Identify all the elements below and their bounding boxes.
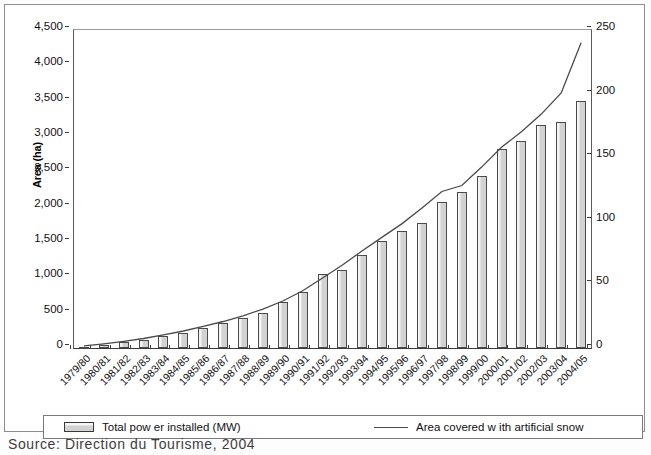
- y-axis-left-tick-label: 4,500: [11, 20, 63, 32]
- y-axis-right-tick-label: 50: [596, 274, 636, 286]
- y-axis-left-tick-mark: [65, 238, 69, 239]
- legend-bar-label: Total pow er installed (MW): [102, 421, 241, 433]
- x-axis-tick-mark: [289, 345, 290, 349]
- x-axis-tick-mark: [189, 345, 190, 349]
- x-axis-tick-mark: [130, 345, 131, 349]
- x-axis-tick-mark: [329, 345, 330, 349]
- y-axis-left-tick-mark: [65, 167, 69, 168]
- x-axis-tick-mark: [249, 345, 250, 349]
- y-axis-left-tick-mark: [65, 203, 69, 204]
- x-axis-tick-mark: [229, 345, 230, 349]
- x-axis-tick-mark: [388, 345, 389, 349]
- y-axis-right-tick-label: 0: [596, 338, 636, 350]
- y-axis-left-tick-label: 2,000: [11, 197, 63, 209]
- x-axis-tick-mark: [209, 345, 210, 349]
- x-axis-tick-mark: [468, 345, 469, 349]
- x-axis-tick-mark: [309, 345, 310, 349]
- x-axis-tick-mark: [70, 345, 71, 349]
- x-axis-tick-mark: [90, 345, 91, 349]
- y-axis-left-tick-label: 3,000: [11, 126, 63, 138]
- y-axis-left-tick-label: 2,500: [11, 161, 63, 173]
- y-axis-left-tick-mark: [65, 26, 69, 27]
- x-axis-tick-mark: [169, 345, 170, 349]
- y-axis-left-tick-label: 500: [11, 303, 63, 315]
- x-axis-tick-mark: [368, 345, 369, 349]
- x-axis-tick-mark: [448, 345, 449, 349]
- x-axis-tick-mark: [567, 345, 568, 349]
- y-axis-right-tick-label: 250: [596, 20, 636, 32]
- y-axis-left-tick-label: 3,500: [11, 91, 63, 103]
- x-axis-tick-mark: [488, 345, 489, 349]
- y-axis-left-tick-mark: [65, 273, 69, 274]
- legend-item-bar: Total pow er installed (MW): [64, 419, 241, 435]
- x-axis-tick-mark: [110, 345, 111, 349]
- chart-page: Area (ha) Installed Power (Megawatts) 05…: [0, 0, 651, 455]
- chart-frame: Area (ha) Installed Power (Megawatts) 05…: [4, 4, 645, 432]
- line-series: [74, 30, 591, 348]
- x-axis-tick-mark: [269, 345, 270, 349]
- x-axis-tick-mark: [150, 345, 151, 349]
- y-axis-left-tick-label: 4,000: [11, 55, 63, 67]
- y-axis-right-tick-label: 100: [596, 211, 636, 223]
- y-axis-left-tick-label: 1,000: [11, 267, 63, 279]
- legend-line-label: Area covered w ith artificial snow: [416, 421, 583, 433]
- area-covered-line: [84, 43, 581, 346]
- y-axis-left-tick-mark: [65, 344, 69, 345]
- y-axis-left-tick-label: 1,500: [11, 232, 63, 244]
- y-axis-right-tick-label: 150: [596, 147, 636, 159]
- y-axis-right-tick-mark: [587, 26, 591, 27]
- x-axis-tick-mark: [587, 345, 588, 349]
- source-note: Source: Direction du Tourisme, 2004: [8, 436, 255, 455]
- x-axis-tick-mark: [428, 345, 429, 349]
- x-axis-tick-mark: [348, 345, 349, 349]
- y-axis-left-tick-mark: [65, 132, 69, 133]
- y-axis-left-tick-mark: [65, 61, 69, 62]
- y-axis-left-tick-mark: [65, 309, 69, 310]
- x-axis-tick-mark: [507, 345, 508, 349]
- plot-area: [73, 29, 592, 349]
- y-axis-left-tick-label: 0: [11, 338, 63, 350]
- x-axis-tick-mark: [408, 345, 409, 349]
- y-axis-right-tick-label: 200: [596, 84, 636, 96]
- legend-item-line: Area covered w ith artificial snow: [374, 419, 583, 435]
- legend-bar-swatch-icon: [64, 422, 94, 432]
- legend-line-swatch-icon: [374, 427, 408, 428]
- x-axis-tick-mark: [547, 345, 548, 349]
- y-axis-left-tick-mark: [65, 97, 69, 98]
- x-axis-tick-mark: [527, 345, 528, 349]
